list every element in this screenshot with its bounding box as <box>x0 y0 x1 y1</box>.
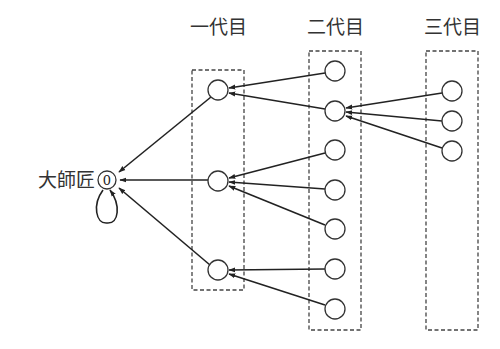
node-gen2-5 <box>325 219 345 239</box>
self-loop-edge <box>96 190 117 223</box>
node-gen2-2 <box>325 101 345 121</box>
node-gen2-1 <box>325 61 345 81</box>
edge <box>119 188 210 265</box>
edge <box>229 186 325 225</box>
edge <box>119 97 211 172</box>
edges-gen1-to-root <box>119 97 211 265</box>
generation-label-1: 一代目 <box>190 16 247 38</box>
edge <box>229 269 325 270</box>
generation-label-3: 三代目 <box>424 16 481 38</box>
generation-1-nodes <box>208 80 228 280</box>
node-gen2-3 <box>325 140 345 160</box>
edges-gen3-to-gen2 <box>346 93 442 148</box>
generation-3-nodes <box>442 81 462 161</box>
node-gen1-3 <box>208 260 228 280</box>
lineage-diagram: 一代目 二代目 三代目 0 大師匠 <box>0 0 500 349</box>
node-gen2-6 <box>325 259 345 279</box>
node-gen3-1 <box>442 81 462 101</box>
node-gen3-3 <box>442 141 462 161</box>
root-node: 0 <box>98 171 116 189</box>
generation-label-2: 二代目 <box>307 16 364 38</box>
node-gen2-4 <box>325 180 345 200</box>
edge <box>229 93 325 109</box>
root-number: 0 <box>103 173 111 188</box>
node-gen1-2 <box>208 171 228 191</box>
edge <box>229 274 325 305</box>
generation-2-nodes <box>325 61 345 319</box>
node-gen3-2 <box>442 111 462 131</box>
node-gen2-7 <box>325 299 345 319</box>
root-label: 大師匠 <box>38 169 95 191</box>
node-gen1-1 <box>208 80 228 100</box>
